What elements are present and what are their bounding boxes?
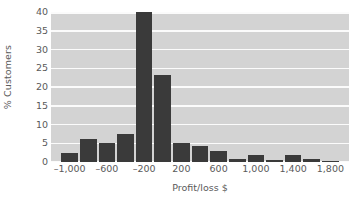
x-tick-label: 1,800 (317, 163, 344, 174)
y-axis-tick-labels: 0510152025303540 (22, 0, 48, 206)
bar (248, 155, 265, 162)
chart-figure: % Customers 0510152025303540 –1,000–600–… (0, 0, 360, 206)
y-tick-label: 10 (26, 120, 48, 130)
bar (61, 153, 78, 162)
y-tick-label: 5 (26, 139, 48, 149)
bar (173, 143, 190, 162)
x-tick-label: 1,000 (242, 163, 269, 174)
bar (303, 159, 320, 162)
y-tick-label: 20 (26, 82, 48, 92)
x-tick-label: 600 (210, 163, 228, 174)
y-tick-label: 15 (26, 101, 48, 111)
bar (285, 155, 302, 162)
bar (99, 143, 116, 162)
y-tick-label: 25 (26, 64, 48, 74)
bar (210, 151, 227, 162)
x-tick-label: 200 (172, 163, 190, 174)
bar (117, 134, 134, 162)
bar (266, 160, 283, 162)
y-tick-label: 30 (26, 45, 48, 55)
x-tick-label: –1,000 (54, 163, 86, 174)
bar-series (51, 12, 349, 162)
y-tick-label: 40 (26, 7, 48, 17)
bar (136, 12, 153, 162)
x-tick-label: –600 (95, 163, 118, 174)
x-tick-label: 1,400 (280, 163, 307, 174)
bar (192, 146, 209, 162)
y-tick-label: 35 (26, 26, 48, 36)
plot-area (51, 12, 349, 162)
x-axis-tick-labels: –1,000–600–2002006001,0001,4001,800 (51, 163, 349, 179)
bar (229, 159, 246, 162)
bar (80, 139, 97, 162)
x-axis-title: Profit/loss $ (51, 182, 349, 193)
y-axis-title: % Customers (2, 0, 18, 180)
bar (154, 75, 171, 162)
x-tick-label: –200 (133, 163, 156, 174)
y-tick-label: 0 (26, 157, 48, 167)
bar (322, 161, 339, 162)
